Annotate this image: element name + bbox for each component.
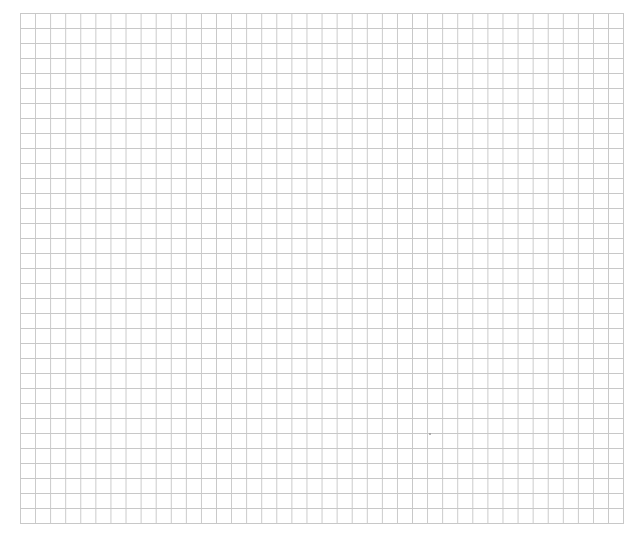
stray-dot-marker [429,433,431,435]
graph-paper-grid [20,13,624,524]
